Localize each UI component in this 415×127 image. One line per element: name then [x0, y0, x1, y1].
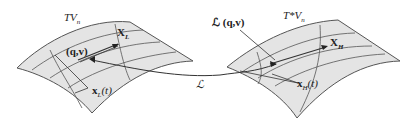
- right-surface: [227, 20, 400, 118]
- left-curve-label: xL(t): [92, 85, 112, 99]
- left-vector-field-label: XL: [117, 27, 129, 41]
- right-curve-label: xH(t): [297, 78, 318, 92]
- left-surface-title: TVn: [64, 12, 80, 26]
- legendre-map-label: ℒ: [196, 79, 204, 90]
- diagram-canvas: [0, 0, 415, 127]
- right-surface-title: T*Vn: [283, 10, 305, 24]
- right-vector-field-label: XH: [330, 37, 343, 51]
- right-point-label: ℒ (q,v): [212, 17, 244, 28]
- left-surface: [17, 22, 193, 113]
- left-point-label: (q,v): [66, 46, 88, 57]
